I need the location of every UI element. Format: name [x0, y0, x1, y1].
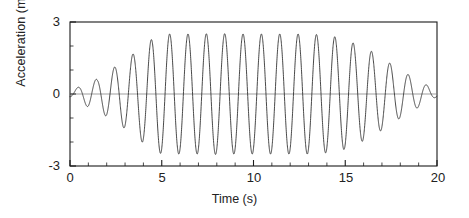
plot-area: [0, 0, 469, 218]
acceleration-time-chart: Acceleration (m/s2) 3 0 -3 0 5 10 15 20 …: [0, 0, 469, 218]
